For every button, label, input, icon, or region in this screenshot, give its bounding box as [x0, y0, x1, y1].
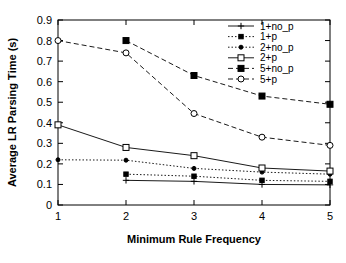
data-point: [191, 153, 197, 159]
data-point: [327, 142, 333, 148]
y-tick-label: 0.9: [37, 14, 52, 26]
y-tick-label: 0.7: [37, 55, 52, 67]
legend-label: 5+no_p: [260, 63, 294, 74]
data-point: [259, 93, 265, 99]
data-point: [124, 158, 128, 162]
data-point: [327, 101, 333, 107]
x-tick-label: 3: [191, 210, 197, 222]
data-point: [55, 122, 61, 128]
legend-label: 2+no_p: [260, 42, 294, 53]
data-point: [192, 166, 196, 170]
x-tick-label: 5: [327, 210, 333, 222]
data-point: [191, 73, 197, 79]
data-point: [123, 50, 129, 56]
data-point: [124, 172, 128, 176]
y-tick-label: 0.8: [37, 35, 52, 47]
y-tick-label: 0.4: [37, 117, 52, 129]
y-tick-label: 0.1: [37, 178, 52, 190]
legend-marker: [238, 65, 244, 71]
data-point: [259, 134, 265, 140]
y-tick-label: 0: [46, 199, 52, 211]
data-point: [55, 38, 61, 44]
legend-label: 1+no_p: [260, 21, 294, 32]
data-point: [328, 179, 332, 183]
data-point: [260, 178, 264, 182]
y-tick-label: 0.2: [37, 158, 52, 170]
y-tick-label: 0.6: [37, 76, 52, 88]
legend-marker: [238, 55, 244, 61]
y-tick-label: 0.3: [37, 137, 52, 149]
y-axis-label: Average LR Parsing Time (s): [6, 38, 18, 187]
data-point: [327, 168, 333, 174]
data-point: [259, 165, 265, 171]
x-axis-label: Minimum Rule Frequency: [127, 233, 262, 245]
data-point: [123, 144, 129, 150]
x-tick-label: 2: [123, 210, 129, 222]
x-tick-label: 1: [55, 210, 61, 222]
x-tick-label: 4: [259, 210, 265, 222]
line-chart: 00.10.20.30.40.50.60.70.80.912345Minimum…: [0, 0, 346, 263]
data-point: [191, 111, 197, 117]
legend-label: 2+p: [260, 52, 277, 63]
chart-figure: 00.10.20.30.40.50.60.70.80.912345Minimum…: [0, 0, 346, 263]
legend-label: 5+p: [260, 74, 277, 85]
legend-marker: [238, 76, 244, 82]
data-point: [123, 38, 129, 44]
legend-label: 1+p: [260, 31, 277, 42]
legend-marker: [239, 45, 243, 49]
legend-marker: [239, 34, 243, 38]
data-point: [192, 174, 196, 178]
y-tick-label: 0.5: [37, 96, 52, 108]
data-point: [56, 158, 60, 162]
